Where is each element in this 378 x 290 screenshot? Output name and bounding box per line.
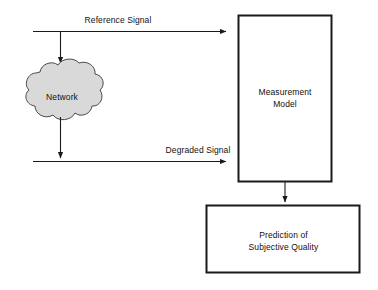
edge-label-reference-signal: Reference Signal: [23, 15, 213, 25]
node-label-network: Network: [18, 91, 106, 103]
diagram-canvas: Reference Signal Degraded Signal Network…: [0, 0, 378, 290]
node-network-shape: [26, 59, 103, 120]
node-label-prediction: Prediction of Subjective Quality: [207, 229, 360, 253]
edge-label-degraded-signal: Degraded Signal: [123, 145, 273, 155]
node-label-measurement-model: Measurement Model: [240, 86, 330, 110]
